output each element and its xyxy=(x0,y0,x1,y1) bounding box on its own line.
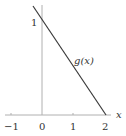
x-tick-label-2: 2 xyxy=(102,121,108,132)
y-tick-label-1: 1 xyxy=(31,17,37,28)
x-tick-label-1: 1 xyxy=(70,121,76,132)
g-line xyxy=(33,6,106,115)
x-axis-label: x xyxy=(116,109,122,120)
x-tick-label-neg1: −1 xyxy=(4,121,19,132)
x-tick-label-0: 0 xyxy=(39,121,45,132)
curve-label: g(x) xyxy=(74,55,94,66)
chart: 1 g(x) x −1 0 1 2 xyxy=(0,0,126,136)
